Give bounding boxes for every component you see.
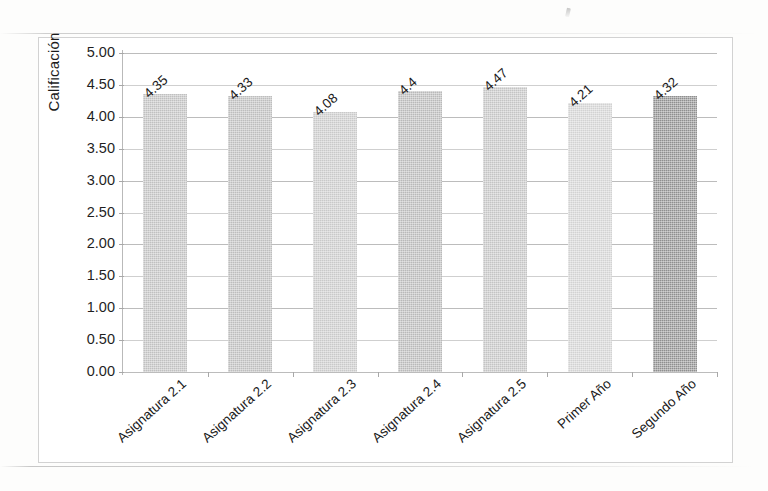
y-axis-tick-label: 2.50 xyxy=(59,204,115,220)
gridline xyxy=(123,53,717,54)
scan-artifact-top-line xyxy=(0,33,768,34)
plot-area: 4.354.334.084.44.474.214.32 xyxy=(123,53,717,372)
x-axis-tick-mark xyxy=(293,372,294,377)
y-axis-tick-label: 4.50 xyxy=(59,76,115,92)
y-axis-tick-mark xyxy=(119,85,124,86)
y-axis-tick-labels: 5.004.504.003.503.002.502.001.501.000.50… xyxy=(57,53,115,372)
bar xyxy=(568,103,612,372)
bar xyxy=(313,112,357,372)
y-axis-tick-label: 3.00 xyxy=(59,172,115,188)
y-axis-tick-mark xyxy=(119,53,124,54)
scan-artifact-speck xyxy=(565,8,571,18)
x-axis-category-label: Asignatura 2.4 xyxy=(352,376,444,461)
y-axis-tick-mark xyxy=(119,213,124,214)
x-axis-category-label: Segundo Año xyxy=(607,376,699,461)
y-axis-tick-label: 1.00 xyxy=(59,299,115,315)
y-axis-tick-label: 1.50 xyxy=(59,267,115,283)
x-axis-tick-mark xyxy=(378,372,379,377)
x-axis-category-label: Primer Año xyxy=(522,376,614,461)
x-axis-category-label: Asignatura 2.5 xyxy=(437,376,529,461)
y-axis-tick-label: 0.00 xyxy=(59,363,115,379)
bar xyxy=(398,91,442,372)
y-axis-tick-mark xyxy=(119,372,124,373)
x-axis-tick-mark xyxy=(632,372,633,377)
scan-artifact-bottom-line xyxy=(0,466,768,467)
gridline xyxy=(123,372,717,373)
y-axis-tick-label: 4.00 xyxy=(59,108,115,124)
y-axis-tick-mark xyxy=(119,276,124,277)
x-axis-category-label: Asignatura 2.2 xyxy=(183,376,275,461)
y-axis-tick-mark xyxy=(119,340,124,341)
x-axis-tick-mark xyxy=(547,372,548,377)
y-axis-tick-mark xyxy=(119,117,124,118)
y-axis-tick-label: 2.00 xyxy=(59,235,115,251)
y-axis-tick-mark xyxy=(119,149,124,150)
y-axis-tick-label: 0.50 xyxy=(59,331,115,347)
y-axis-tick-label: 3.50 xyxy=(59,140,115,156)
y-axis-tick-mark xyxy=(119,181,124,182)
y-axis-tick-label: 5.00 xyxy=(59,44,115,60)
bar xyxy=(483,87,527,372)
bar xyxy=(143,94,187,372)
y-axis-tick-mark xyxy=(119,244,124,245)
x-axis-category-label: Asignatura 2.3 xyxy=(267,376,359,461)
x-axis-tick-mark xyxy=(462,372,463,377)
y-axis-tick-mark xyxy=(119,308,124,309)
bar xyxy=(653,96,697,372)
bar xyxy=(228,96,272,372)
x-axis-tick-mark xyxy=(717,372,718,377)
x-axis-tick-mark xyxy=(208,372,209,377)
x-axis-category-labels: Asignatura 2.1Asignatura 2.2Asignatura 2… xyxy=(123,376,717,462)
